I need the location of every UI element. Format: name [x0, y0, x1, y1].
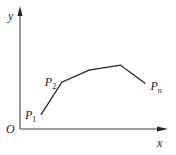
polyline-curve: [41, 65, 145, 115]
x-axis-arrow-icon: [157, 127, 168, 132]
point-label-p2: P2: [44, 75, 56, 91]
diagram-canvas: y x O P1P2Pn: [0, 0, 176, 155]
y-axis-arrow-icon: [18, 6, 23, 16]
point-label-pn: Pn: [149, 79, 161, 95]
point-label-p1: P1: [24, 108, 36, 124]
y-axis-label: y: [7, 9, 14, 23]
origin-label: O: [6, 122, 15, 136]
x-axis-label: x: [156, 136, 163, 150]
point-labels: P1P2Pn: [24, 65, 162, 124]
